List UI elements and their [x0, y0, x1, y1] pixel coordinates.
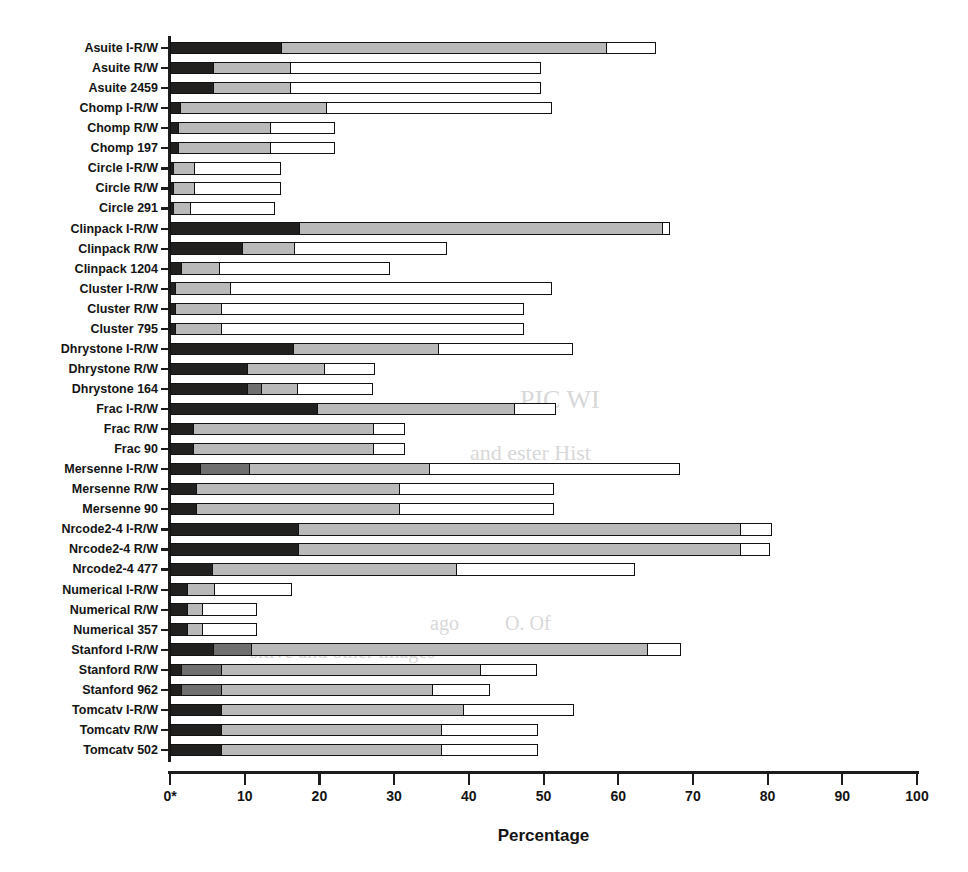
stacked-bar: [170, 282, 555, 294]
y-axis-label: Cluster R/W: [2, 299, 158, 319]
bar-segment-1: [170, 543, 299, 555]
y-axis-label: Numerical R/W: [2, 600, 158, 620]
y-axis-label: Tomcatv 502: [2, 740, 158, 760]
bar-segment-4: [214, 583, 292, 595]
y-axis-tick: [161, 368, 170, 370]
y-axis-label: Tomcatv I-R/W: [2, 700, 158, 720]
stacked-bar: [170, 523, 775, 535]
bar-segment-3: [178, 122, 271, 134]
stacked-bar: [170, 724, 541, 736]
bar-segment-3: [175, 282, 232, 294]
stacked-bar: [170, 403, 558, 415]
y-axis-tick: [161, 147, 170, 149]
bar-row: Stanford I-R/W: [170, 640, 917, 660]
bar-row: Chomp 197: [170, 138, 917, 158]
y-axis-tick: [161, 649, 170, 651]
bar-segment-3: [187, 583, 215, 595]
bar-row: Clinpack 1204: [170, 259, 917, 279]
y-axis-tick: [161, 167, 170, 169]
x-axis-tick-label: 100: [905, 788, 928, 804]
y-axis-label: Asuite R/W: [2, 58, 158, 78]
bar-segment-3: [196, 483, 401, 495]
bar-segment-1: [170, 483, 197, 495]
y-axis-tick: [161, 187, 170, 189]
bar-segment-3: [187, 603, 203, 615]
bar-segment-4: [290, 82, 540, 94]
stacked-bar: [170, 162, 284, 174]
bar-segment-4: [463, 704, 574, 716]
y-axis-label: Mersenne R/W: [2, 479, 158, 499]
bar-segment-3: [299, 222, 664, 234]
bar-segment-1: [170, 42, 282, 54]
stacked-bar: [170, 423, 408, 435]
bar-segment-1: [170, 62, 215, 74]
bar-row: Nrcode2-4 477: [170, 559, 917, 579]
bar-row: Circle I-R/W: [170, 158, 917, 178]
y-axis-tick: [161, 548, 170, 550]
y-axis-label: Circle R/W: [2, 178, 158, 198]
bar-row: Frac R/W: [170, 419, 917, 439]
stacked-bar: [170, 182, 284, 194]
bar-segment-4: [194, 182, 281, 194]
bar-row: Asuite R/W: [170, 58, 917, 78]
stacked-bar: [170, 664, 541, 676]
y-axis-tick: [161, 528, 170, 530]
y-axis-tick: [161, 508, 170, 510]
bar-segment-2: [181, 684, 223, 696]
stacked-bar: [170, 323, 527, 335]
plot-area: Asuite I-R/WAsuite R/WAsuite 2459Chomp I…: [170, 38, 917, 760]
x-axis-tick: [169, 773, 171, 785]
bar-segment-1: [170, 583, 189, 595]
stacked-bar: [170, 303, 527, 315]
bar-segment-3: [221, 744, 442, 756]
bar-segment-3: [175, 303, 222, 315]
y-axis-tick: [161, 248, 170, 250]
stacked-bar: [170, 463, 684, 475]
bar-segment-1: [170, 242, 243, 254]
x-axis-tick-label: 50: [536, 788, 552, 804]
bar-row: Clinpack R/W: [170, 239, 917, 259]
bar-segment-1: [170, 463, 201, 475]
stacked-bar: [170, 704, 577, 716]
bar-segment-3: [221, 684, 434, 696]
bar-segment-4: [429, 463, 679, 475]
bar-row: Circle 291: [170, 198, 917, 218]
bar-row: Tomcatv 502: [170, 740, 917, 760]
x-axis-tick-label: 10: [237, 788, 253, 804]
bar-segment-3: [221, 664, 481, 676]
bar-segment-3: [281, 42, 608, 54]
bar-segment-4: [441, 724, 538, 736]
bar-segment-4: [740, 523, 772, 535]
stacked-bar: [170, 62, 544, 74]
y-axis-label: Chomp I-R/W: [2, 98, 158, 118]
y-axis-tick: [161, 47, 170, 49]
bar-row: Numerical I-R/W: [170, 580, 917, 600]
stacked-bar: [170, 363, 378, 375]
bar-segment-1: [170, 82, 215, 94]
bar-segment-4: [480, 664, 538, 676]
bar-row: Chomp I-R/W: [170, 98, 917, 118]
y-axis-label: Clinpack 1204: [2, 259, 158, 279]
y-axis-label: Frac R/W: [2, 419, 158, 439]
y-axis-tick: [161, 127, 170, 129]
bar-segment-3: [221, 704, 465, 716]
x-axis-tick-label: 90: [835, 788, 851, 804]
y-axis-tick: [161, 408, 170, 410]
bar-segment-4: [326, 102, 552, 114]
bar-rows: Asuite I-R/WAsuite R/WAsuite 2459Chomp I…: [170, 38, 917, 760]
y-axis-tick: [161, 268, 170, 270]
bar-segment-4: [432, 684, 490, 696]
bar-row: Mersenne R/W: [170, 479, 917, 499]
bar-segment-4: [373, 423, 404, 435]
bar-segment-3: [213, 82, 291, 94]
y-axis-label: Dhrystone I-R/W: [2, 339, 158, 359]
y-axis-tick: [161, 87, 170, 89]
bar-segment-4: [399, 483, 554, 495]
bar-row: Tomcatv R/W: [170, 720, 917, 740]
y-axis-label: Frac 90: [2, 439, 158, 459]
y-axis-label: Mersenne 90: [2, 499, 158, 519]
bar-segment-2: [200, 463, 251, 475]
bar-segment-2: [213, 643, 252, 655]
x-axis-tick: [318, 773, 320, 785]
y-axis-label: Frac I-R/W: [2, 399, 158, 419]
